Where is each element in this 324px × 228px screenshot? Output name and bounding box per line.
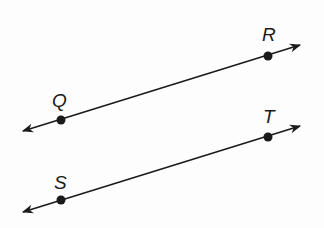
label-q: Q [52,90,67,111]
parallel-lines-figure: Q R S T [0,0,324,228]
line-qr: Q R [23,24,300,131]
diagram-canvas: Q R S T [0,0,324,228]
point-t [264,133,273,142]
label-s: S [54,172,67,193]
label-r: R [262,24,276,45]
point-r [264,52,273,61]
label-t: T [263,106,276,127]
point-s [57,196,66,205]
point-q [57,116,66,125]
